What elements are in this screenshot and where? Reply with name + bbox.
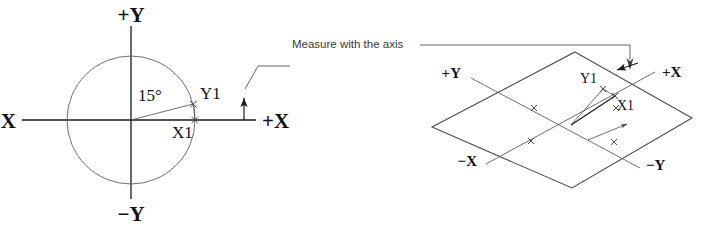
- annotation-leader-left: [245, 66, 290, 89]
- iso-plus-x-label: +X: [662, 64, 682, 80]
- isometric-plane-view: +Y +X −X −Y Y1 X1: [432, 52, 692, 188]
- angle-15-degree-label: 15°: [138, 86, 162, 105]
- iso-tick-minus-y: [611, 139, 617, 145]
- iso-minus-y-label: −Y: [646, 157, 666, 173]
- flat-x1-label: X1: [172, 123, 193, 142]
- iso-minus-x-label: −X: [458, 153, 478, 169]
- iso-measure-direction-arrow: [588, 124, 627, 140]
- iso-edge-direction-arrow: [617, 63, 638, 70]
- annotation-group: Measure with the axis: [245, 38, 634, 89]
- technical-diagram-figure: +Y −Y +X −X 15° Y1 X1 Measure with the a…: [0, 0, 709, 231]
- flat-minus-x-label: −X: [0, 109, 16, 133]
- flat-y1-label: Y1: [200, 84, 221, 103]
- flat-circle-view: +Y −Y +X −X 15° Y1 X1: [0, 3, 289, 226]
- flat-minus-y-label: −Y: [117, 202, 144, 226]
- angle-ray-15deg: [131, 104, 193, 120]
- flat-plus-x-label: +X: [262, 109, 289, 133]
- flat-plus-y-label: +Y: [117, 3, 144, 27]
- iso-y1-label: Y1: [580, 71, 597, 86]
- iso-projection-segment: [603, 89, 615, 96]
- iso-plus-y-label: +Y: [442, 65, 462, 81]
- annotation-text: Measure with the axis: [292, 38, 403, 50]
- iso-x1-label: X1: [617, 98, 634, 113]
- diagram-canvas: +Y −Y +X −X 15° Y1 X1 Measure with the a…: [0, 0, 709, 231]
- annotation-leader-right: [420, 45, 630, 60]
- iso-tick-plus-y: [531, 105, 537, 111]
- iso-y1-tick-mark: [600, 86, 606, 92]
